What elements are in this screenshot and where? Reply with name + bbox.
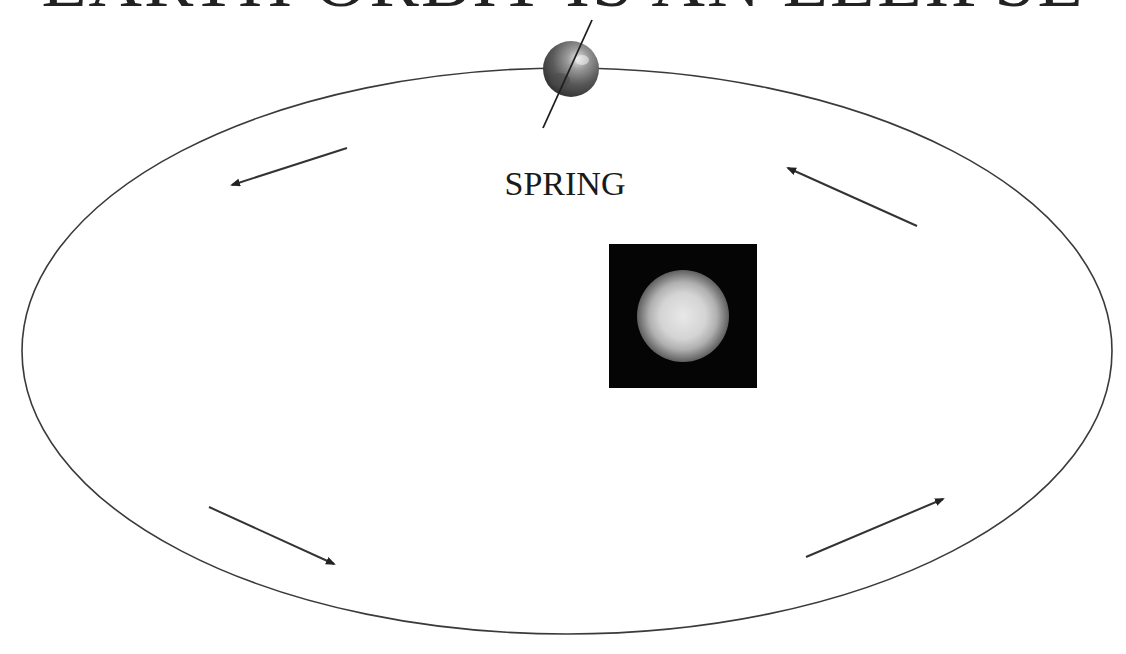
diagram-canvas: EARTH ORBIT IS AN ELLIPSE	[0, 0, 1126, 654]
orbit-diagram	[0, 0, 1126, 654]
orbit-direction-arrow-icon	[232, 148, 347, 185]
orbit-direction-arrow-icon	[209, 507, 334, 564]
sun-icon	[637, 270, 729, 362]
orbit-direction-arrow-icon	[788, 168, 917, 226]
orbit-ellipse	[22, 68, 1112, 634]
sun-image	[609, 244, 757, 388]
earth-icon	[543, 20, 599, 128]
season-label: SPRING	[490, 164, 640, 204]
orbit-direction-arrow-icon	[806, 499, 943, 557]
